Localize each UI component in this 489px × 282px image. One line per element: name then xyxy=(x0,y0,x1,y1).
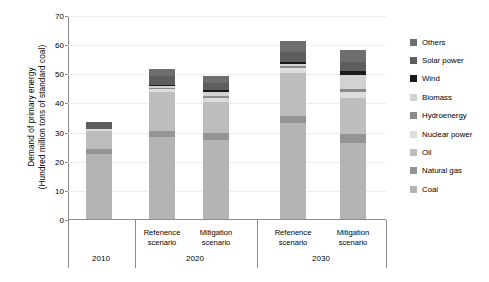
legend-item-hydroenergy[interactable]: Hydroenergy xyxy=(410,107,488,125)
scenario-label-2: Mitigation scenario xyxy=(184,228,248,247)
bar-segment-solar-power[interactable] xyxy=(86,122,112,129)
group-separator-2 xyxy=(257,220,258,268)
y-tick-label-40: 40 xyxy=(55,99,64,108)
legend-swatch-icon xyxy=(410,75,417,82)
group-separator-3 xyxy=(386,220,387,268)
legend-item-solar-power[interactable]: Solar power xyxy=(410,51,488,69)
bar-1[interactable] xyxy=(149,69,175,220)
bar-segment-others[interactable] xyxy=(203,76,229,83)
y-tick-label-60: 60 xyxy=(55,41,64,50)
bar-segment-others[interactable] xyxy=(149,69,175,76)
bar-segment-oil[interactable] xyxy=(86,131,112,149)
bar-segment-others[interactable] xyxy=(280,41,306,52)
legend-label: Wind xyxy=(422,74,440,83)
bar-2[interactable] xyxy=(203,76,229,220)
bar-series-group xyxy=(68,16,386,220)
y-tick-label-30: 30 xyxy=(55,128,64,137)
y-tick-label-0: 0 xyxy=(60,216,64,225)
legend-swatch-icon xyxy=(410,186,417,193)
bar-segment-solar-power[interactable] xyxy=(149,76,175,85)
bar-segment-coal[interactable] xyxy=(203,140,229,220)
legend-swatch-icon xyxy=(410,57,417,64)
bar-segment-natural-gas[interactable] xyxy=(280,116,306,124)
plot-area: 010203040506070 xyxy=(68,16,386,220)
stacked-bar-chart: Demand of primary energy (Hundred millio… xyxy=(0,0,489,282)
bar-0[interactable] xyxy=(86,122,112,220)
legend-label: Biomass xyxy=(422,93,452,102)
year-label-2030: 2030 xyxy=(281,254,361,263)
bar-segment-oil[interactable] xyxy=(203,102,229,133)
bar-segment-oil[interactable] xyxy=(280,73,306,116)
legend-item-natural-gas[interactable]: Natural gas xyxy=(410,162,488,180)
y-tick-label-10: 10 xyxy=(55,186,64,195)
legend-item-wind[interactable]: Wind xyxy=(410,70,488,88)
legend-swatch-icon xyxy=(410,131,417,138)
legend-label: Oil xyxy=(422,148,432,157)
bar-segment-coal[interactable] xyxy=(149,137,175,220)
legend-item-nuclear-power[interactable]: Nuclear power xyxy=(410,125,488,143)
bar-segment-coal[interactable] xyxy=(86,154,112,220)
y-tick-label-50: 50 xyxy=(55,70,64,79)
legend-item-biomass[interactable]: Biomass xyxy=(410,88,488,106)
bar-4[interactable] xyxy=(340,50,366,220)
chart-legend: OthersSolar powerWindBiomassHydroenergyN… xyxy=(410,33,488,199)
legend-label: Hydroenergy xyxy=(422,111,467,120)
legend-swatch-icon xyxy=(410,39,417,46)
legend-item-coal[interactable]: Coal xyxy=(410,180,488,198)
bar-segment-others[interactable] xyxy=(340,50,366,63)
legend-label: Others xyxy=(422,38,445,47)
y-axis-title: Demand of primary energy (Hundred millio… xyxy=(26,17,48,217)
bar-segment-biomass[interactable] xyxy=(340,75,366,90)
bar-segment-natural-gas[interactable] xyxy=(340,134,366,143)
legend-swatch-icon xyxy=(410,149,417,156)
legend-label: Coal xyxy=(422,185,438,194)
scenario-label-4: Mitigation scenario xyxy=(321,228,385,247)
year-label-2010: 2010 xyxy=(61,254,141,263)
bar-segment-oil[interactable] xyxy=(340,98,366,134)
legend-swatch-icon xyxy=(410,112,417,119)
legend-label: Natural gas xyxy=(422,166,462,175)
bar-segment-coal[interactable] xyxy=(340,143,366,220)
y-tick-label-20: 20 xyxy=(55,157,64,166)
year-label-2020: 2020 xyxy=(155,254,235,263)
legend-item-oil[interactable]: Oil xyxy=(410,143,488,161)
bar-segment-oil[interactable] xyxy=(149,92,175,130)
legend-swatch-icon xyxy=(410,94,417,101)
scenario-label-3: Refenence scenario xyxy=(261,228,325,247)
y-tick-label-70: 70 xyxy=(55,12,64,21)
x-axis-labels: Refenence scenarioMitigation scenarioRef… xyxy=(68,220,386,278)
legend-item-others[interactable]: Others xyxy=(410,33,488,51)
legend-swatch-icon xyxy=(410,167,417,174)
legend-label: Nuclear power xyxy=(422,130,472,139)
legend-label: Solar power xyxy=(422,56,464,65)
bar-segment-solar-power[interactable] xyxy=(280,52,306,62)
bar-segment-solar-power[interactable] xyxy=(340,62,366,71)
bar-3[interactable] xyxy=(280,41,306,220)
bar-segment-coal[interactable] xyxy=(280,123,306,220)
bar-segment-solar-power[interactable] xyxy=(203,83,229,91)
